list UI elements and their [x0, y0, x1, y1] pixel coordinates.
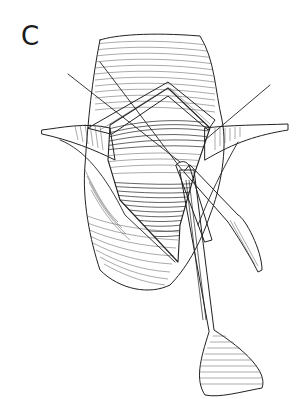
- retractor-hooks: [68, 62, 270, 170]
- wound-opening: [105, 88, 215, 262]
- upper-flap: [88, 82, 215, 134]
- elevator-instrument: [180, 170, 263, 396]
- surgical-illustration: [0, 0, 303, 399]
- tissue-body: [84, 34, 224, 290]
